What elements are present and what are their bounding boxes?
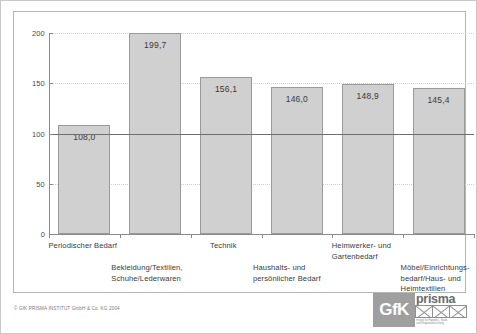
y-tick-mark (49, 134, 53, 135)
category-label: Heimwerker- und Gartenbedarf (332, 241, 391, 262)
prisma-logo-text: prisma (415, 293, 467, 305)
gridline-100 (49, 134, 474, 135)
y-tick-mark (49, 184, 53, 185)
x-mark-icon (450, 306, 466, 317)
bar: 148,9 (342, 84, 394, 234)
chart-plot-frame: 050100150200 108,0199,7156,1146,0148,914… (13, 11, 466, 293)
gridline-200 (49, 33, 474, 34)
gfk-logo-box: GfK (373, 293, 415, 327)
x-axis-category-labels: Periodischer BedarfBekleidung/Textilien,… (49, 239, 474, 297)
bar: 108,0 (58, 125, 110, 234)
bar: 156,1 (200, 77, 252, 234)
bar: 146,0 (271, 87, 323, 234)
y-tick-mark (49, 83, 53, 84)
y-tick-label: 0 (41, 230, 45, 239)
y-tick-mark (49, 234, 53, 235)
y-tick-mark (49, 33, 53, 34)
bar-value-label: 146,0 (272, 94, 322, 104)
x-mark-icon (433, 306, 450, 317)
category-label: Technik (210, 241, 236, 252)
category-label: Periodischer Bedarf (48, 241, 117, 252)
gridline-0 (49, 234, 474, 235)
gridline-150 (49, 83, 474, 84)
x-mark-icon (416, 306, 433, 317)
bar-value-label: 156,1 (201, 84, 251, 94)
gridline-50 (49, 184, 474, 185)
x-tick-mark (474, 234, 475, 238)
y-tick-label: 50 (36, 179, 45, 188)
prisma-logo-block: prisma Institut für Handels-, Stadt- und… (415, 293, 467, 327)
prisma-x-pattern-icon (415, 305, 467, 318)
chart-plot-area: 108,0199,7156,1146,0148,9145,4 (49, 33, 474, 234)
bar: 145,4 (413, 88, 465, 234)
category-label: Bekleidung/Textilien, Schuhe/Lederwaren (111, 263, 182, 284)
y-tick-label: 200 (32, 29, 45, 38)
y-tick-label: 100 (32, 129, 45, 138)
copyright-text: © GfK PRISMA INSTITUT GmbH & Co. KG 2004 (14, 306, 120, 311)
bar-value-label: 148,9 (343, 91, 393, 101)
y-axis-labels: 050100150200 (14, 33, 45, 234)
category-label: Haushalts- und persönlicher Bedarf (253, 263, 321, 284)
gfk-prisma-logo: GfK prisma Institut für Handels-, Stadt-… (373, 293, 467, 327)
bar-value-label: 199,7 (130, 40, 180, 50)
prisma-logo-tagline: Institut für Handels-, Stadt- und Region… (415, 318, 467, 326)
chart-page: 050100150200 108,0199,7156,1146,0148,914… (0, 0, 477, 334)
bar-value-label: 145,4 (414, 95, 464, 105)
y-tick-label: 150 (32, 79, 45, 88)
category-label: Möbel/Einrichtungs- bedarf/Haus- und Hei… (401, 263, 470, 295)
gfk-logo-text: GfK (379, 300, 409, 320)
